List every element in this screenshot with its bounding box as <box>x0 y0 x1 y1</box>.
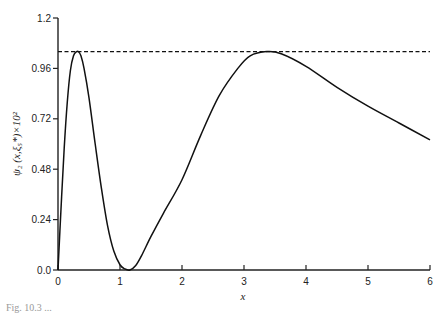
x-tick-label: 1 <box>117 276 123 287</box>
x-ticks: 0123456 <box>55 265 433 287</box>
y-tick-label: 0.48 <box>32 164 52 175</box>
x-tick-label: 2 <box>179 276 185 287</box>
line-chart: 0.00.240.480.720.961.2 0123456 ψ₂ (x,ξ₅*… <box>0 0 447 315</box>
x-tick-label: 3 <box>241 276 247 287</box>
x-tick-label: 5 <box>365 276 371 287</box>
y-tick-label: 0.72 <box>32 113 52 124</box>
figure-caption: Fig. 10.3 ... <box>6 302 446 315</box>
y-axis-title: ψ₂ (x,ξ₅*)×10² <box>10 111 23 176</box>
y-ticks: 0.00.240.480.720.961.2 <box>32 13 58 276</box>
plot-area <box>58 51 430 270</box>
y-tick-label: 0.96 <box>32 63 52 74</box>
psi2-curve <box>58 51 430 270</box>
x-tick-label: 0 <box>55 276 61 287</box>
x-tick-label: 6 <box>427 276 433 287</box>
y-tick-label: 0.0 <box>37 265 51 276</box>
y-tick-label: 0.24 <box>32 214 52 225</box>
x-tick-label: 4 <box>303 276 309 287</box>
y-tick-label: 1.2 <box>37 13 51 24</box>
x-axis-title: x <box>240 290 246 302</box>
axes: 0.00.240.480.720.961.2 0123456 <box>32 13 434 288</box>
